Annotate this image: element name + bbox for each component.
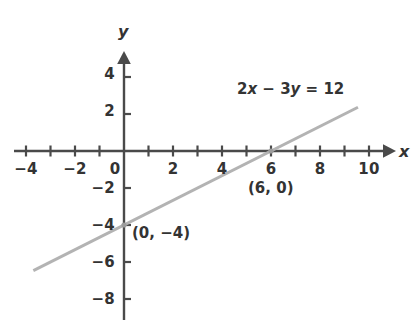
equation-minus: − [257, 80, 280, 98]
x-tick-label-8: 8 [315, 160, 326, 178]
x-tick-label-0: 0 [110, 160, 121, 178]
x-tick-label--4: −4 [14, 160, 37, 178]
y-tick-label-4: 4 [95, 65, 115, 83]
x-tick-label--2: −2 [63, 160, 86, 178]
equation-var-y: y [291, 80, 301, 98]
y-tick-label--2: −2 [87, 179, 115, 197]
x-tick-label-6: 6 [266, 160, 277, 178]
point-label-6-0: (6, 0) [248, 179, 294, 197]
x-axis-arrowhead [383, 144, 396, 158]
intercept-marker-1 [121, 222, 126, 227]
y-tick-label--4: −4 [87, 216, 115, 234]
equation-equals: = [300, 80, 323, 98]
x-tick-label-4: 4 [217, 160, 228, 178]
equation-coef-x: 2 [237, 80, 247, 98]
y-tick-label-2: 2 [95, 102, 115, 120]
x-tick-label-2: 2 [168, 160, 179, 178]
y-axis-label: y [118, 22, 128, 41]
line-2x-minus-3y-equals-12 [33, 107, 358, 270]
x-tick-label-10: 10 [358, 160, 379, 178]
equation-label: 2x − 3y = 12 [237, 80, 344, 98]
intercept-marker-0 [268, 148, 273, 153]
equation-rhs: 12 [323, 80, 344, 98]
plotted-line-group [33, 107, 358, 270]
y-tick-label--8: −8 [87, 290, 115, 308]
equation-var-x: x [247, 80, 257, 98]
y-tick-label--6: −6 [87, 253, 115, 271]
y-axis-arrowhead [117, 51, 131, 64]
coordinate-plane-figure: −4 −2 0 2 4 6 8 10 4 2 −2 −4 −6 −8 x y 2… [0, 0, 417, 336]
point-label-0-neg4: (0, −4) [132, 224, 190, 242]
equation-coef-y: 3 [280, 80, 290, 98]
x-axis-label: x [399, 142, 409, 161]
